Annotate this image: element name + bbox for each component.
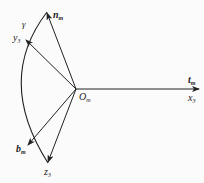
arc-curve (21, 12, 48, 163)
x3-label: x3 (187, 92, 195, 104)
b-m-label: bm (16, 143, 26, 155)
y3-label: y3 (12, 32, 20, 44)
y3-vector (26, 40, 76, 89)
gamma-label: γ (22, 19, 26, 29)
n-m-vector (47, 13, 76, 89)
n-m-label: nm (53, 9, 64, 21)
frenet-frame-diagram: nm γ y3 Om tm x3 bm z3 (0, 0, 204, 183)
t-m-label: tm (188, 74, 196, 86)
z3-vector (48, 89, 76, 162)
b-m-vector (28, 89, 76, 145)
origin-label: Om (79, 91, 91, 103)
z3-label: z3 (43, 166, 51, 178)
